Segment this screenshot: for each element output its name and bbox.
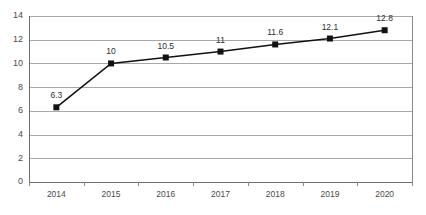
series-marker-2018 (272, 41, 278, 47)
y-tick-label-0: 0 (18, 176, 23, 186)
line-chart: 02468101214 2014201520162017201820192020… (0, 0, 426, 215)
data-label-2018: 11.6 (267, 27, 283, 37)
y-tick-label-14: 14 (13, 10, 23, 20)
x-tick-label-2016: 2016 (156, 189, 175, 199)
data-label-2016: 10.5 (158, 41, 175, 51)
data-label-2014: 6.3 (50, 90, 62, 100)
x-tick-label-2019: 2019 (320, 189, 339, 199)
data-label-2020: 12.8 (376, 13, 393, 23)
x-tick-label-2018: 2018 (266, 189, 285, 199)
series-marker-2020 (382, 27, 388, 33)
series-marker-2014 (53, 104, 59, 110)
y-tick-label-6: 6 (18, 105, 23, 115)
data-label-2017: 11 (216, 35, 225, 45)
y-tick-label-group: 02468101214 (13, 10, 23, 186)
data-label-2019: 12.1 (322, 22, 339, 32)
y-tick-label-2: 2 (18, 153, 23, 163)
x-tick-label-2020: 2020 (375, 189, 394, 199)
x-tick-group (30, 182, 413, 186)
x-tick-label-2015: 2015 (102, 189, 121, 199)
chart-canvas: 02468101214 2014201520162017201820192020… (0, 0, 426, 215)
series-marker-2019 (327, 36, 333, 42)
y-tick-label-12: 12 (13, 34, 23, 44)
series-marker-2015 (108, 60, 114, 66)
x-tick-label-2014: 2014 (47, 189, 66, 199)
y-tick-label-8: 8 (18, 82, 23, 92)
x-tick-label-2017: 2017 (211, 189, 230, 199)
data-label-2015: 10 (106, 46, 116, 56)
series-marker-2016 (163, 55, 169, 61)
x-tick-label-group: 2014201520162017201820192020 (47, 189, 394, 199)
y-tick-label-10: 10 (13, 58, 23, 68)
y-tick-label-4: 4 (18, 129, 23, 139)
series-marker-2017 (218, 49, 224, 55)
